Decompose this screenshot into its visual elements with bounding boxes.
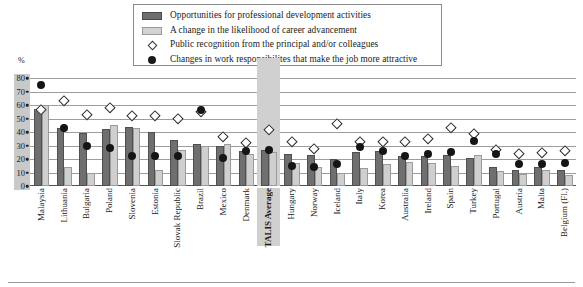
bar [239, 151, 247, 186]
x-axis-category-label: Portugal [492, 188, 501, 219]
y-axis-tick-dot [26, 185, 29, 188]
bar-group [303, 78, 326, 186]
bar [87, 173, 95, 187]
filled-circle-marker-icon [83, 142, 91, 150]
bar-group [553, 78, 576, 186]
open-diamond-marker-icon [218, 131, 229, 142]
bar [557, 170, 565, 186]
footer-rule [8, 282, 575, 283]
bar-group [417, 78, 440, 186]
x-axis-category-label: Turkey [469, 188, 478, 214]
open-diamond-marker-icon [173, 113, 184, 124]
x-axis-category-label: Slovenia [128, 188, 137, 220]
filled-circle-marker-icon [219, 154, 227, 162]
bar [489, 167, 497, 186]
filled-circle-marker-icon [401, 152, 409, 160]
bar-group [258, 78, 281, 186]
open-diamond-marker-icon [82, 109, 93, 120]
filled-circle-marker-icon [37, 81, 45, 89]
x-axis-category-label: Hungary [287, 188, 296, 220]
open-diamond-marker-icon [104, 102, 115, 113]
open-diamond-marker-icon [400, 136, 411, 147]
bar-group [371, 78, 394, 186]
y-axis-tick-dot [26, 171, 29, 174]
y-axis-tick-dot [26, 131, 29, 134]
filled-circle-marker-icon [265, 146, 273, 154]
open-diamond-marker-icon [264, 124, 275, 135]
bar [224, 144, 232, 186]
bar [269, 152, 277, 186]
open-diamond-marker-icon [286, 136, 297, 147]
bar-group [394, 78, 417, 186]
bar-light-swatch-icon [142, 27, 162, 35]
bar [375, 151, 383, 186]
bar [110, 125, 118, 186]
x-axis-category-label: Ireland [424, 188, 433, 213]
x-axis-category-label: Belgium (Fl.) [560, 188, 569, 237]
open-diamond-marker-icon [514, 148, 525, 159]
x-axis-category-label: Poland [105, 188, 114, 213]
bar [102, 129, 110, 186]
bar [64, 167, 72, 186]
x-axis-category-label: Malta [537, 188, 546, 209]
open-diamond-marker-icon [332, 119, 343, 130]
bar [421, 156, 429, 186]
bar-group [280, 78, 303, 186]
x-axis-category-label: Slovak Republic [173, 188, 182, 248]
x-axis-category-label: Australia [401, 188, 410, 221]
bar [542, 170, 550, 186]
filled-circle-marker-icon [142, 55, 162, 65]
y-axis-tick-dot [26, 117, 29, 120]
bar [57, 128, 65, 186]
x-axis-category-label: Austria [515, 188, 524, 215]
x-axis-category-label: Malaysia [37, 188, 46, 221]
open-diamond-marker-icon [59, 96, 70, 107]
bar-group [462, 78, 485, 186]
legend-item-professional-development: Opportunities for professional developme… [142, 9, 435, 23]
plot-area: 80706050403020100 [30, 78, 576, 186]
filled-circle-marker-icon [492, 150, 500, 158]
bar [284, 154, 292, 186]
x-axis-category-label: Iceland [333, 188, 342, 214]
bar [155, 170, 163, 186]
open-diamond-marker-icon [377, 136, 388, 147]
bar-group [326, 78, 349, 186]
bar [512, 170, 520, 186]
bar [519, 174, 527, 186]
filled-circle-marker-icon [379, 147, 387, 155]
legend-item-career-advancement: A change in the likelihood of career adv… [142, 24, 435, 38]
x-axis-category-label: Spain [446, 188, 455, 209]
bar [193, 144, 201, 186]
x-axis-category-label: Mexico [219, 188, 228, 216]
filled-circle-marker-icon [424, 150, 432, 158]
bar [352, 152, 360, 186]
x-axis-category-label: Bulgaria [82, 188, 91, 219]
bar [360, 168, 368, 186]
bar-dark-swatch-icon [142, 12, 162, 20]
bar [261, 150, 269, 186]
open-diamond-marker-icon [446, 123, 457, 134]
filled-circle-marker-icon [310, 163, 318, 171]
filled-circle-marker-icon [470, 137, 478, 145]
open-diamond-marker-icon [423, 133, 434, 144]
bar-group [144, 78, 167, 186]
filled-circle-marker-icon [515, 160, 523, 168]
open-diamond-marker-icon [150, 111, 161, 122]
open-diamond-marker-icon [537, 147, 548, 158]
legend-label: Changes in work responsibilites that mak… [170, 55, 417, 64]
open-diamond-marker-icon [127, 111, 138, 122]
legend-label: A change in the likelihood of career adv… [170, 26, 357, 35]
legend-label: Public recognition from the principal an… [170, 40, 378, 49]
bar-group [98, 78, 121, 186]
filled-circle-marker-icon [242, 147, 250, 155]
bar [497, 171, 505, 186]
bar-group [349, 78, 372, 186]
bar [443, 155, 451, 186]
bar-group [76, 78, 99, 186]
bar-group [440, 78, 463, 186]
filled-circle-marker-icon [106, 144, 114, 152]
x-axis-category-label: Italy [355, 188, 364, 205]
filled-circle-marker-icon [356, 143, 364, 151]
y-axis-tick-dot [26, 90, 29, 93]
filled-circle-marker-icon [561, 159, 569, 167]
